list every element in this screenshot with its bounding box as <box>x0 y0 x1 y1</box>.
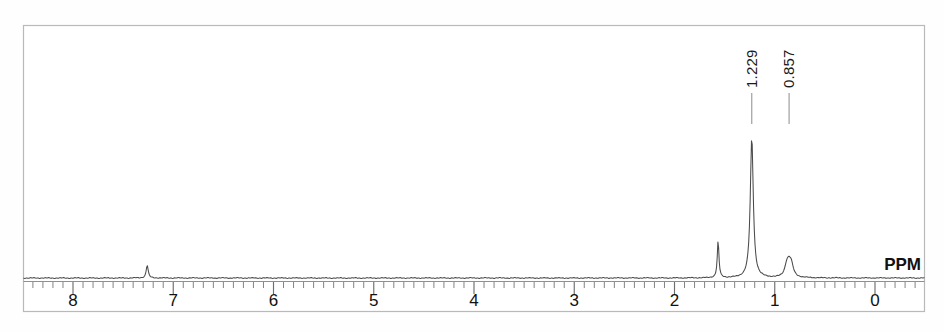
axis-tick-label: 6 <box>269 291 278 310</box>
spectrum-canvas: 876543210 1.2290.857 PPM <box>0 0 944 332</box>
axis-tick-label: 3 <box>570 291 579 310</box>
peak-label-text: 1.229 <box>743 49 760 88</box>
axis-tick-label: 1 <box>770 291 779 310</box>
peak-label-text: 0.857 <box>780 49 797 88</box>
nmr-spectrum-figure: 876543210 1.2290.857 PPM <box>0 0 944 332</box>
axis-tick-label: 8 <box>68 291 77 310</box>
axis-tick-label: 4 <box>469 291 478 310</box>
axis-tick-label: 0 <box>870 291 879 310</box>
axis-tick-label: 5 <box>369 291 378 310</box>
axis-tick-label: 7 <box>169 291 178 310</box>
axis-tick-label: 2 <box>670 291 679 310</box>
ppm-unit-label: PPM <box>884 255 921 274</box>
